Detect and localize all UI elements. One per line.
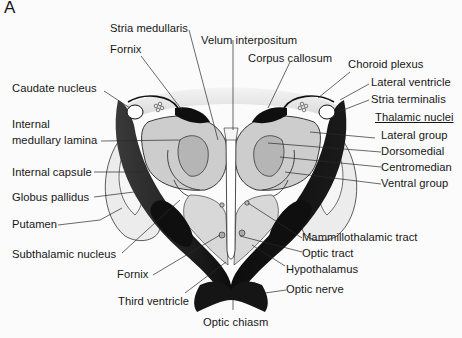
label-centromedian: Centromedian — [381, 161, 452, 174]
third-ventricle — [226, 133, 236, 259]
caudate-nucleus-right — [319, 105, 335, 119]
label-putamen: Putamen — [12, 218, 57, 231]
label-choroid-plexus: Choroid plexus — [348, 58, 423, 71]
mammillothalamic-left — [220, 203, 224, 207]
label-velum-interpositum: Velum interpositum — [201, 34, 297, 47]
fornix-right — [239, 230, 245, 236]
label-optic-nerve: Optic nerve — [286, 283, 344, 296]
label-subthalamic-nucleus: Subthalamic nucleus — [12, 248, 116, 261]
label-lateral-group: Lateral group — [381, 129, 448, 142]
velum-choroid — [224, 128, 238, 140]
label-optic-tract: Optic tract — [302, 247, 354, 260]
label-caudate-nucleus: Caudate nucleus — [12, 82, 97, 95]
brain-coronal-section-diagram: A Stria medullaris Fornix Velum interpos… — [0, 0, 462, 338]
label-internal-capsule: Internal capsule — [12, 166, 92, 179]
label-fornix-bottom: Fornix — [117, 268, 148, 281]
label-hypothalamus: Hypothalamus — [286, 263, 358, 276]
label-fornix-top: Fornix — [110, 43, 141, 56]
caudate-nucleus-left — [127, 105, 143, 119]
label-internal-medullary-lamina-line1: Internal — [12, 118, 50, 131]
label-mammillothalamic-tract: Mammillothalamic tract — [302, 231, 417, 244]
corpus-callosum — [118, 88, 345, 123]
label-internal-medullary-lamina-line2: medullary lamina — [12, 134, 97, 147]
label-ventral-group: Ventral group — [381, 177, 448, 190]
label-corpus-callosum: Corpus callosum — [248, 52, 332, 65]
label-thalamic-nuclei-heading: Thalamic nuclei — [375, 111, 453, 124]
label-third-ventricle: Third ventricle — [118, 295, 189, 308]
label-globus-pallidus: Globus pallidus — [12, 191, 89, 204]
panel-letter: A — [4, 1, 15, 14]
label-stria-medullaris: Stria medullaris — [110, 22, 188, 35]
label-optic-chiasm: Optic chiasm — [203, 316, 268, 329]
label-lateral-ventricle: Lateral ventricle — [371, 76, 451, 89]
label-dorsomedial: Dorsomedial — [381, 145, 444, 158]
label-stria-terminalis: Stria terminalis — [371, 93, 446, 106]
